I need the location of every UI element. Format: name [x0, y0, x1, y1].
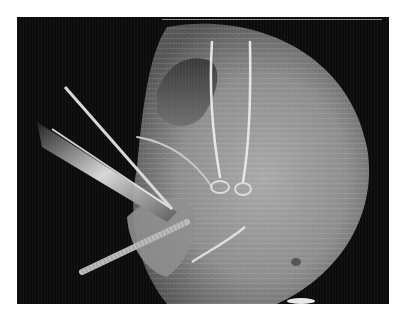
top-border-line — [162, 19, 382, 20]
instrument-tip-reflection — [287, 298, 315, 304]
tissue-spot — [291, 258, 301, 266]
arthroscopic-image — [17, 17, 389, 304]
scene — [17, 17, 389, 304]
